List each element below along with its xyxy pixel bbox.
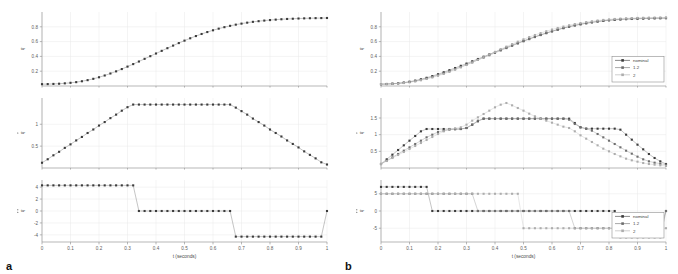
- legend-entry-label: 1.2: [633, 65, 640, 70]
- data-point-marker: [505, 46, 507, 48]
- data-point-marker: [189, 104, 191, 106]
- data-point-marker: [414, 145, 416, 147]
- data-point-marker: [625, 158, 627, 160]
- data-point-marker: [212, 210, 214, 212]
- data-point-marker: [551, 122, 553, 124]
- data-point-marker: [654, 164, 656, 166]
- data-point-marker: [568, 24, 570, 26]
- data-point-marker: [431, 193, 433, 195]
- data-point-marker: [602, 128, 604, 130]
- data-point-marker: [115, 70, 117, 72]
- data-point-marker: [608, 150, 610, 152]
- data-point-marker: [235, 236, 237, 238]
- data-point-marker: [562, 118, 564, 120]
- data-point-marker: [534, 227, 536, 229]
- legend-sample-marker: [621, 66, 624, 69]
- data-point-marker: [391, 193, 393, 195]
- data-point-marker: [471, 210, 473, 212]
- data-point-marker: [471, 193, 473, 195]
- legend-acceleration[interactable]: nominal1.22: [612, 212, 664, 238]
- data-point-marker: [149, 55, 151, 57]
- data-point-marker: [483, 193, 485, 195]
- data-point-marker: [172, 104, 174, 106]
- data-point-marker: [585, 227, 587, 229]
- data-point-marker: [303, 236, 305, 238]
- data-point-marker: [591, 210, 593, 212]
- data-point-marker: [223, 104, 225, 106]
- data-point-marker: [619, 129, 621, 131]
- x-axis-label: t (seconds): [173, 254, 197, 259]
- data-point-marker: [625, 134, 627, 136]
- data-point-marker: [58, 83, 60, 85]
- x-tick-label: 0.3: [463, 246, 470, 251]
- data-point-marker: [505, 118, 507, 120]
- data-point-marker: [534, 34, 536, 36]
- legend-entry-label: 1.2: [633, 221, 640, 226]
- data-point-marker: [454, 69, 456, 71]
- data-point-marker: [75, 139, 77, 141]
- data-point-marker: [460, 66, 462, 68]
- data-point-marker: [426, 139, 428, 141]
- data-point-marker: [636, 161, 638, 163]
- data-point-marker: [591, 141, 593, 143]
- legend-position[interactable]: nominal1.22: [612, 56, 664, 82]
- x-axis-label: t (seconds): [512, 254, 536, 259]
- data-point-marker: [420, 130, 422, 132]
- data-point-marker: [642, 148, 644, 150]
- y-label-dot: [17, 209, 18, 210]
- data-point-marker: [494, 210, 496, 212]
- data-point-marker: [98, 184, 100, 186]
- data-point-marker: [64, 184, 66, 186]
- data-point-marker: [155, 104, 157, 106]
- data-point-marker: [631, 139, 633, 141]
- data-point-marker: [540, 32, 542, 34]
- data-point-marker: [144, 104, 146, 106]
- data-point-marker: [636, 144, 638, 146]
- data-point-marker: [545, 30, 547, 32]
- data-point-marker: [642, 158, 644, 160]
- y-tick-label: 1: [374, 132, 377, 137]
- y-tick-label: -2: [34, 221, 39, 226]
- data-point-marker: [303, 17, 305, 19]
- data-point-marker: [240, 110, 242, 112]
- data-point-marker: [448, 128, 450, 130]
- data-point-marker: [585, 21, 587, 23]
- data-point-marker: [195, 35, 197, 37]
- data-point-marker: [500, 118, 502, 120]
- data-point-marker: [81, 80, 83, 82]
- data-point-marker: [614, 153, 616, 155]
- data-point-marker: [58, 184, 60, 186]
- x-tick-label: 0: [380, 246, 383, 251]
- y-label-dot: [17, 212, 18, 213]
- data-point-marker: [195, 104, 197, 106]
- panel-b-payload-variation-position-plot: 0.20.40.60.8qnominal1.22: [358, 12, 667, 88]
- data-point-marker: [408, 186, 410, 188]
- legend-entry-label: nominal: [633, 58, 648, 63]
- data-point-marker: [132, 184, 134, 186]
- data-point-marker: [568, 210, 570, 212]
- data-point-marker: [557, 227, 559, 229]
- data-point-marker: [665, 16, 667, 18]
- data-point-marker: [528, 210, 530, 212]
- data-point-marker: [178, 210, 180, 212]
- data-point-marker: [426, 136, 428, 138]
- panel-a-nominal-trajectory-position-plot: 0.20.40.60.8q: [19, 12, 328, 88]
- data-point-marker: [437, 193, 439, 195]
- data-point-marker: [568, 227, 570, 229]
- y-tick-label: 0.5: [32, 144, 39, 149]
- data-point-marker: [488, 54, 490, 56]
- y-axis-label: q: [17, 209, 25, 213]
- data-point-marker: [69, 143, 71, 145]
- data-point-marker: [292, 236, 294, 238]
- data-point-marker: [87, 132, 89, 134]
- x-tick-label: 0.3: [124, 246, 131, 251]
- x-tick-label: 0.6: [210, 246, 217, 251]
- data-point-marker: [659, 164, 661, 166]
- data-point-marker: [41, 83, 43, 85]
- data-point-marker: [98, 125, 100, 127]
- y-tick-label: 0.6: [32, 39, 39, 44]
- data-point-marker: [551, 118, 553, 120]
- data-point-marker: [166, 47, 168, 49]
- data-point-marker: [431, 210, 433, 212]
- data-point-marker: [443, 193, 445, 195]
